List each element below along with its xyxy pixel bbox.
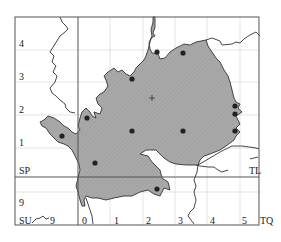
x-label-4: 4 [210, 216, 215, 226]
x-label-1: 1 [114, 216, 119, 226]
label-su: SU [19, 216, 32, 226]
map-canvas [0, 0, 281, 242]
y-label-2: 2 [19, 105, 24, 115]
record-dot-icon [129, 128, 134, 133]
label-sp: SP [19, 166, 30, 176]
x-label-3: 3 [178, 216, 183, 226]
x-label-2: 2 [146, 216, 151, 226]
y-label-4: 4 [19, 39, 24, 49]
record-dot-icon [180, 128, 185, 133]
record-dot-icon [84, 115, 89, 120]
y-label-1: 1 [19, 138, 24, 148]
label-tl: TL [249, 166, 261, 176]
record-dot-icon [180, 50, 185, 55]
record-dot-icon [92, 160, 97, 165]
y-label-9: 9 [19, 198, 24, 208]
x-label-9: 9 [50, 216, 55, 226]
record-dot-icon [154, 186, 159, 191]
record-dot-icon [232, 128, 237, 133]
record-dot-icon [154, 49, 159, 54]
x-label-0: 0 [82, 216, 87, 226]
county-area [40, 17, 242, 206]
record-dot-icon [59, 133, 64, 138]
x-label-5: 5 [242, 216, 247, 226]
record-dot-icon [232, 111, 237, 116]
distribution-map: SP TL SU TQ 4 3 2 1 9 9 0 1 2 3 4 5 [0, 0, 281, 242]
y-label-3: 3 [19, 72, 24, 82]
record-dot-icon [129, 76, 134, 81]
label-tq: TQ [260, 216, 273, 226]
record-dot-icon [232, 103, 237, 108]
